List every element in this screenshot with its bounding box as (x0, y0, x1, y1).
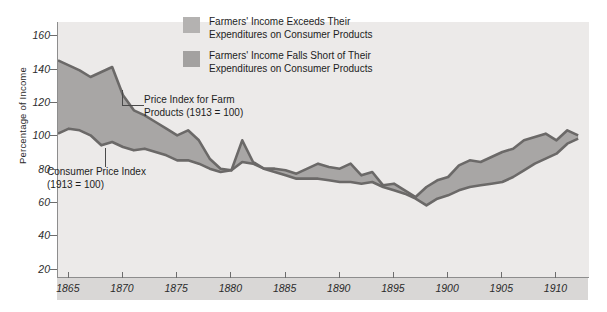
x-tick-label: 1870 (110, 282, 133, 294)
x-tick-label: 1875 (165, 282, 188, 294)
x-tick-label: 1910 (544, 282, 567, 294)
y-tick-mark (50, 69, 57, 70)
x-tick-mark (285, 272, 286, 278)
x-tick-mark (393, 272, 394, 278)
y-tick-label: 80 (20, 163, 50, 175)
x-tick-mark (68, 272, 69, 278)
x-tick-mark (339, 272, 340, 278)
x-tick-mark (176, 272, 177, 278)
legend-label: Farmers' Income Falls Short of Their Exp… (209, 50, 372, 75)
chart-figure: Percentage of Income 2040608010012014016… (0, 0, 607, 312)
y-tick-mark (50, 202, 57, 203)
y-tick-mark (50, 269, 57, 270)
y-tick-label: 160 (20, 29, 50, 41)
annotation-consumer-index: Consumer Price Index (1913 = 100) (47, 166, 146, 191)
y-tick-mark (50, 35, 57, 36)
y-tick-label: 20 (20, 263, 50, 275)
x-tick-label: 1865 (56, 282, 79, 294)
y-tick-label: 40 (20, 229, 50, 241)
y-tick-mark (50, 235, 57, 236)
x-tick-label: 1905 (490, 282, 513, 294)
legend-swatch (183, 51, 200, 67)
leader-line-farm-v (122, 90, 123, 106)
x-tick-label: 1885 (273, 282, 296, 294)
chart-legend: Farmers' Income Exceeds Their Expenditur… (183, 16, 372, 84)
y-tick-mark (50, 169, 57, 170)
x-tick-label: 1900 (435, 282, 458, 294)
y-tick-mark (50, 102, 57, 103)
leader-line-farm (122, 105, 144, 106)
x-tick-mark (501, 272, 502, 278)
y-tick-label: 140 (20, 63, 50, 75)
x-tick-label: 1895 (381, 282, 404, 294)
leader-line-cpi-v (105, 148, 106, 167)
x-tick-mark (447, 272, 448, 278)
x-tick-mark (230, 272, 231, 278)
x-axis-tick-labels: 1865187018751880188518901895190019051910 (57, 278, 588, 300)
y-axis-tick-labels: 20406080100120140160 (18, 0, 50, 312)
annotation-farm-index: Price Index for Farm Products (1913 = 10… (144, 94, 243, 119)
legend-item: Farmers' Income Exceeds Their Expenditur… (183, 16, 372, 41)
legend-swatch (183, 17, 200, 33)
y-tick-label: 120 (20, 96, 50, 108)
x-tick-label: 1890 (327, 282, 350, 294)
x-tick-mark (122, 272, 123, 278)
y-tick-mark (50, 135, 57, 136)
x-tick-mark (555, 272, 556, 278)
x-tick-label: 1880 (219, 282, 242, 294)
legend-item: Farmers' Income Falls Short of Their Exp… (183, 50, 372, 75)
legend-label: Farmers' Income Exceeds Their Expenditur… (209, 16, 372, 41)
y-tick-label: 60 (20, 196, 50, 208)
y-tick-label: 100 (20, 129, 50, 141)
